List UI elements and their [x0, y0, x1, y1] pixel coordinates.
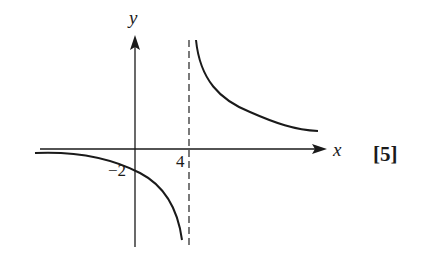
y-axis-label: y — [129, 8, 137, 27]
marks-label: [5] — [373, 144, 398, 165]
graph-canvas — [0, 0, 438, 262]
x-axis-label: x — [333, 140, 341, 159]
y-intercept-label: −2 — [108, 162, 126, 179]
asymptote-label: 4 — [176, 153, 185, 170]
right-branch-curve — [196, 40, 318, 131]
